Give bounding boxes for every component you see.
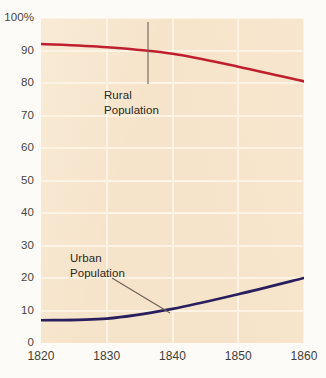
y-axis-tick-label: 40: [0, 207, 34, 219]
y-axis-tick-label: 20: [0, 272, 34, 284]
population-line-chart: Rural Population Urban Population 010203…: [0, 0, 326, 378]
y-axis-tick-label: 100%: [0, 12, 34, 24]
x-axis-tick-label: 1830: [77, 350, 137, 362]
y-axis-tick-label: 80: [0, 77, 34, 89]
y-axis-tick-label: 30: [0, 240, 34, 252]
y-axis-tick-label: 50: [0, 175, 34, 187]
rural-population-line: [41, 44, 304, 81]
plot-area: [41, 18, 304, 343]
y-axis-tick-label: 60: [0, 142, 34, 154]
x-axis-tick-label: 1840: [143, 350, 203, 362]
y-axis-tick-label: 0: [0, 337, 34, 349]
y-axis-tick-label: 90: [0, 45, 34, 57]
rural-population-label: Rural Population: [104, 88, 159, 117]
series-lines: [41, 18, 304, 343]
urban-population-line: [41, 278, 304, 320]
urban-population-label: Urban Population: [70, 251, 125, 280]
y-axis-tick-label: 10: [0, 305, 34, 317]
y-axis-tick-label: 70: [0, 110, 34, 122]
x-axis-tick-label: 1820: [11, 350, 71, 362]
x-axis-tick-label: 1850: [208, 350, 268, 362]
x-axis-tick-label: 1860: [274, 350, 326, 362]
